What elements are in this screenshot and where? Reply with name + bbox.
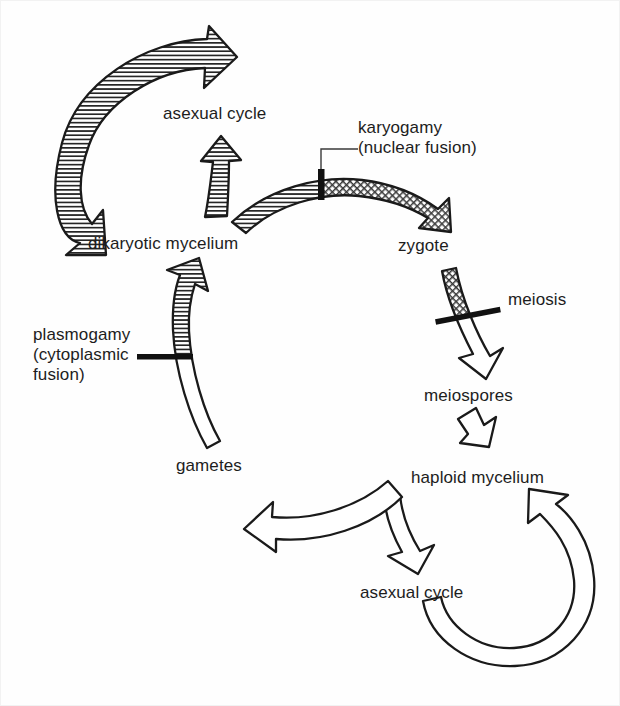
arrow-asexual-to-haploid-loop: [423, 489, 594, 666]
label-karyogamy-line1: karyogamy: [358, 118, 442, 138]
label-asexual-cycle-top: asexual cycle: [163, 104, 266, 124]
karyogamy-bar: [318, 169, 325, 200]
label-meiosis: meiosis: [508, 290, 566, 310]
plasmogamy-bar: [137, 354, 193, 360]
label-meiospores: meiospores: [424, 386, 513, 406]
arrow-dikaryotic-to-asexual: [201, 136, 241, 217]
arrow-zygote-to-meiospores: [435, 268, 503, 379]
label-gametes: gametes: [176, 456, 242, 476]
label-plasmogamy-line3: fusion): [33, 365, 85, 385]
label-karyogamy-line2: (nuclear fusion): [358, 138, 477, 158]
arrow-haploid-to-gametes: [244, 481, 402, 552]
label-zygote: zygote: [398, 236, 449, 256]
label-asexual-cycle-bottom: asexual cycle: [360, 583, 463, 603]
label-dikaryotic-mycelium: dikaryotic mycelium: [88, 234, 238, 254]
label-plasmogamy-line2: (cytoplasmic: [33, 345, 129, 365]
label-plasmogamy-line1: plasmogamy: [33, 325, 130, 345]
arrow-dikaryotic-asexual-loop: [55, 26, 237, 255]
fungal-life-cycle-diagram: asexual cycle dikaryotic mycelium karyog…: [0, 0, 620, 706]
arrow-gametes-to-dikaryotic: [137, 258, 220, 448]
karyogamy-leader-line: [321, 149, 358, 169]
arrow-meiospores-to-haploid: [458, 408, 496, 447]
label-haploid-mycelium: haploid mycelium: [411, 468, 544, 488]
arrow-dikaryotic-to-zygote: [232, 149, 451, 233]
